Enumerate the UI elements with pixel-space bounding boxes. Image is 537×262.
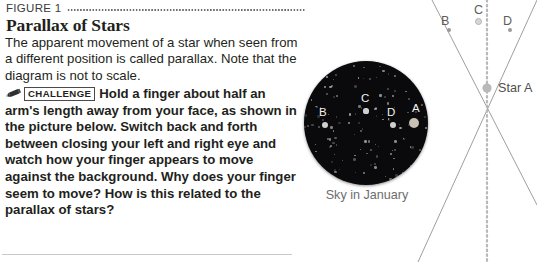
background-star-speck — [399, 127, 401, 129]
background-star-speck — [409, 68, 410, 69]
background-star-speck — [304, 126, 306, 128]
background-star-speck — [363, 67, 364, 68]
figure-label: FIGURE 1 — [6, 2, 61, 14]
background-star-speck — [310, 89, 312, 91]
background-star-speck — [374, 166, 377, 169]
background-star-speck — [394, 90, 396, 92]
sky-star-label-b: B — [319, 106, 327, 118]
background-star-speck — [334, 154, 335, 155]
background-star-speck — [408, 98, 410, 100]
diagram-star-d — [508, 28, 512, 32]
background-star-speck — [379, 94, 381, 96]
background-star-speck — [394, 140, 397, 143]
background-star-speck — [311, 124, 314, 127]
sky-circle-diagram: BCDA — [304, 61, 428, 185]
background-star-speck — [376, 77, 377, 78]
sky-star-label-d: D — [387, 106, 395, 118]
figure-header-row: FIGURE 1 — [6, 2, 306, 14]
star-a-marker — [482, 83, 491, 92]
challenge-block: CHALLENGEHold a finger about half an arm… — [5, 86, 301, 219]
background-star-speck — [334, 171, 336, 173]
background-star-speck — [331, 161, 333, 163]
background-star-speck — [382, 119, 383, 120]
background-star-speck — [358, 77, 359, 78]
background-star-speck — [315, 151, 317, 153]
diagram-star-c — [475, 18, 482, 25]
background-star-speck — [328, 114, 329, 115]
background-star-speck — [388, 73, 390, 75]
background-star-speck — [342, 160, 343, 161]
background-star-speck — [370, 149, 373, 152]
background-star-speck — [403, 170, 404, 171]
background-star-speck — [410, 64, 411, 65]
background-star-speck — [410, 165, 413, 168]
background-star-speck — [388, 118, 390, 120]
background-star-speck — [392, 150, 393, 151]
background-star-speck — [360, 149, 361, 150]
pencil-icon — [5, 87, 22, 100]
background-star-speck — [333, 79, 334, 80]
sky-circle: BCDA — [304, 61, 428, 185]
background-star-speck — [417, 173, 419, 175]
background-star-speck — [318, 126, 320, 128]
background-star-speck — [336, 144, 337, 145]
background-star-speck — [421, 104, 423, 106]
background-star-speck — [418, 161, 420, 163]
background-star-speck — [339, 169, 340, 170]
challenge-badge: CHALLENGE — [24, 87, 95, 101]
background-star-speck — [369, 78, 370, 79]
background-star-speck — [361, 107, 363, 109]
background-star-speck — [358, 122, 360, 124]
background-star-speck — [362, 128, 364, 130]
background-star-speck — [390, 153, 392, 155]
sight-line-right — [418, 0, 537, 262]
background-star-speck — [355, 172, 356, 173]
background-star-speck — [405, 91, 406, 92]
background-star-speck — [309, 84, 311, 86]
background-star-speck — [311, 99, 313, 101]
background-star-speck — [393, 158, 394, 159]
background-star-speck — [423, 92, 425, 94]
background-star-speck — [315, 144, 317, 146]
background-star-speck — [382, 114, 383, 115]
background-star-speck — [329, 86, 331, 88]
background-star-speck — [363, 78, 364, 79]
background-star-speck — [360, 130, 362, 132]
background-star-speck — [378, 146, 379, 147]
background-star-speck — [419, 149, 421, 151]
background-star-speck — [419, 62, 420, 63]
diagram-star-b — [447, 28, 451, 32]
background-star-speck — [333, 62, 334, 63]
background-star-speck — [364, 140, 367, 143]
star-a-label: Star A — [498, 81, 532, 95]
background-star-speck — [336, 95, 338, 97]
background-star-speck — [324, 86, 327, 89]
background-star-speck — [366, 153, 368, 155]
background-star-speck — [348, 122, 350, 124]
background-star-speck — [368, 140, 371, 143]
diagram-label-d: D — [503, 14, 512, 28]
background-star-speck — [403, 138, 405, 140]
sky-star-d — [390, 122, 396, 128]
background-star-speck — [315, 106, 317, 108]
background-star-speck — [402, 172, 403, 173]
background-star-speck — [411, 146, 413, 148]
background-star-speck — [414, 77, 416, 79]
background-star-speck — [376, 155, 378, 157]
background-star-speck — [305, 114, 307, 116]
background-star-speck — [340, 61, 341, 62]
background-star-speck — [424, 116, 426, 118]
intro-paragraph: The apparent movement of a star when see… — [5, 35, 305, 84]
bottom-divider — [2, 254, 292, 255]
background-star-speck — [330, 126, 333, 129]
background-star-speck — [305, 183, 307, 185]
background-star-speck — [354, 85, 357, 88]
background-star-speck — [393, 168, 394, 169]
challenge-text: Hold a finger about half an arm's length… — [5, 86, 297, 217]
background-star-speck — [422, 150, 423, 151]
background-star-speck — [353, 65, 355, 67]
background-star-speck — [385, 176, 386, 177]
sky-star-a — [409, 118, 419, 128]
page-title: Parallax of Stars — [6, 15, 130, 36]
sky-star-b — [322, 122, 328, 128]
